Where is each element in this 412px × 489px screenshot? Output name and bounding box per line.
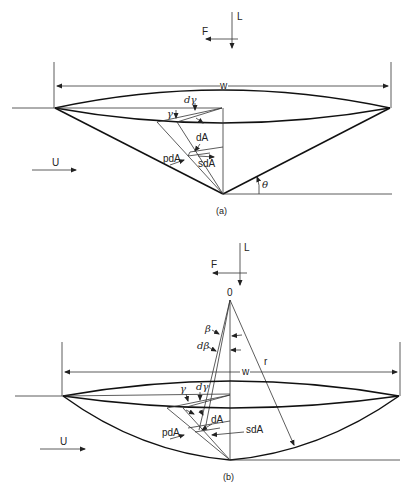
- beta-label: β: [204, 323, 211, 334]
- dbeta-label: dβ: [197, 340, 209, 351]
- gamma-label-a: γ: [167, 108, 173, 119]
- width-dimension-a: w: [54, 62, 391, 108]
- sdA-label-b: sdA: [246, 424, 264, 435]
- dA-label-a: dA: [196, 132, 209, 143]
- theta-label: θ: [262, 179, 268, 190]
- sdA-label-a: sdA: [198, 158, 216, 169]
- lift-label-b: L: [244, 242, 250, 253]
- leading-edge-lower-b: [63, 396, 399, 408]
- freestream-label-b: U: [60, 436, 67, 447]
- freestream-label-a: U: [52, 157, 59, 168]
- drag-label-b: F: [211, 259, 217, 270]
- radius-label: r: [264, 356, 268, 367]
- pdA-label-b: pdA: [162, 427, 180, 438]
- width-label-b: w: [241, 366, 250, 377]
- force-indicator-b: L F: [211, 242, 250, 285]
- origin-label: 0: [227, 287, 233, 298]
- figure-a: L F w d: [12, 11, 392, 216]
- leading-edge-upper-a: [55, 90, 390, 108]
- force-indicator-a: L F: [202, 11, 243, 48]
- right-surface-a: [223, 108, 390, 194]
- diagram-canvas: L F w d: [0, 0, 412, 489]
- lift-label: L: [237, 11, 243, 22]
- drag-label: F: [202, 26, 208, 37]
- gamma-label-b: γ: [180, 383, 186, 394]
- figure-b: L F 0 r β dβ w: [15, 242, 400, 482]
- dA-label-b: dA: [211, 414, 224, 425]
- leading-edge-lower-a: [55, 108, 390, 123]
- dgamma-label-b: dγ: [196, 381, 208, 392]
- leading-edge-upper-b: [63, 381, 399, 396]
- dgamma-label-a: dγ: [184, 94, 196, 105]
- caption-a: (a): [216, 206, 227, 216]
- caption-b: (b): [223, 472, 234, 482]
